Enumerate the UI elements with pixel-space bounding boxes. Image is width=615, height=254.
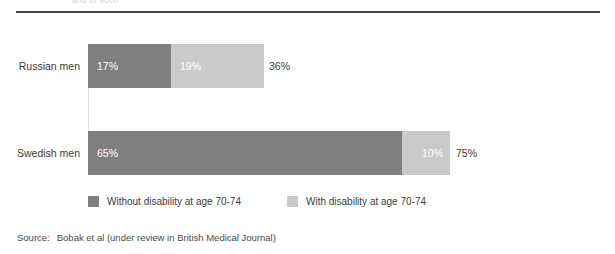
category-label-swedish-men: Swedish men — [0, 131, 80, 175]
legend-swatch-with-disability-icon — [287, 196, 298, 207]
legend-item-with-disability[interactable]: With disability at age 70-74 — [287, 196, 426, 207]
bar-value-with-disability-swedish-men: 10% — [422, 147, 443, 159]
legend-swatch-without-disability-icon — [88, 196, 99, 207]
bar-total-russian-men: 36% — [269, 44, 290, 88]
category-label-russian-men: Russian men — [0, 44, 80, 88]
bar-total-swedish-men: 75% — [456, 131, 477, 175]
bar-value-without-disability-swedish-men: 65% — [88, 147, 118, 159]
bar-swedish-men: 65% 10% — [88, 131, 450, 175]
bar-segment-without-disability-swedish-men[interactable]: 65% — [88, 131, 402, 175]
chart-legend: Without disability at age 70-74 With dis… — [88, 193, 426, 209]
bar-value-without-disability-russian-men: 17% — [88, 60, 118, 72]
figure-root: and of such Russian men 17% 19% 36% Swed… — [0, 0, 615, 254]
bar-segment-with-disability-swedish-men[interactable]: 10% — [402, 131, 450, 175]
source-text: Bobak et al (under review in British Med… — [57, 232, 276, 243]
bar-russian-men: 17% 19% — [88, 44, 264, 88]
legend-label-without-disability: Without disability at age 70-74 — [107, 196, 241, 207]
source-label: Source: — [17, 232, 50, 243]
bar-value-with-disability-russian-men: 19% — [171, 60, 201, 72]
bar-segment-with-disability-russian-men[interactable]: 19% — [171, 44, 264, 88]
legend-item-without-disability[interactable]: Without disability at age 70-74 — [88, 196, 241, 207]
stacked-bar-chart: Russian men 17% 19% 36% Swedish men 65% … — [0, 0, 615, 254]
legend-label-with-disability: With disability at age 70-74 — [306, 196, 426, 207]
source-note: Source:Bobak et al (under review in Brit… — [17, 232, 276, 243]
bar-segment-without-disability-russian-men[interactable]: 17% — [88, 44, 171, 88]
